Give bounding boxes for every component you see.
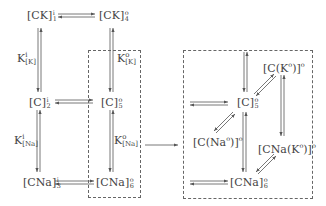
node-ck-i-1: [CK]i1 <box>27 10 57 22</box>
label-k-o-k: Ko[K] <box>117 52 136 66</box>
reversible-arrow-ck1-c2 <box>38 28 41 92</box>
node-cna-o-6: [CNa]o6 <box>96 177 134 189</box>
reversible-arrow-ck1-ck4 <box>58 14 95 17</box>
node-cna-i-3: [CNa]i3 <box>23 177 61 189</box>
node-c-nao: [C(Nao)]o <box>193 134 243 148</box>
label-k-i-k: Ki[K] <box>17 52 36 66</box>
label-k-o-na: Ko[Na] <box>114 134 138 148</box>
node-c-i-2: [C]i2 <box>29 97 51 109</box>
node-c-ko: [C(Ko)]o <box>263 60 305 74</box>
node-cna-ko: [CNa(Ko)]o <box>258 141 316 155</box>
node-ck-o-4: [CK]o4 <box>99 10 129 22</box>
node-c-o-5-expanded: [C]o5 <box>237 97 259 109</box>
node-c-o-5: [C]o5 <box>101 97 123 109</box>
node-cna-o-6-expanded: [CNa]o6 <box>230 177 268 189</box>
label-k-i-na: Ki[Na] <box>14 134 38 148</box>
